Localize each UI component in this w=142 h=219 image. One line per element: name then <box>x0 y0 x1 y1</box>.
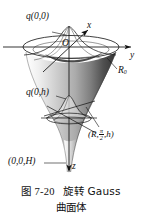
rotated-gauss-surface-diagram <box>0 0 142 182</box>
label-x-axis: x <box>87 21 91 31</box>
label-q-0-h: q(0,h) <box>26 88 49 98</box>
caption-line-2-text: 曲面体 <box>56 201 87 213</box>
edge-point-fraction: π2 <box>99 128 103 141</box>
label-q-0-0: q(0,0) <box>26 12 49 22</box>
label-R0: R0 <box>118 66 127 76</box>
figure-caption-line-1: 图 7-20 旋转 Gauss <box>0 183 142 198</box>
label-z-axis: z <box>72 162 76 172</box>
edge-point-frac-denominator: 2 <box>99 135 103 141</box>
figure-container: q(0,0) x O y R0 q(0,h) (R,π2,h) (0,0,H) … <box>0 0 142 219</box>
label-y-axis: y <box>130 51 134 61</box>
caption-prefix: 图 <box>21 185 31 197</box>
edge-point-paren-close: ) <box>111 129 114 139</box>
leader-line-q00 <box>52 32 66 35</box>
label-origin: O <box>62 39 69 49</box>
caption-body: 旋转 Gauss <box>63 185 120 197</box>
label-bottom-point: (0,0,H) <box>8 157 35 167</box>
figure-caption-line-2: 曲面体 <box>0 199 142 214</box>
label-R0-subscript: 0 <box>124 69 127 75</box>
label-edge-point: (R,π2,h) <box>88 128 114 141</box>
caption-figure-number: 7-20 <box>35 186 55 197</box>
